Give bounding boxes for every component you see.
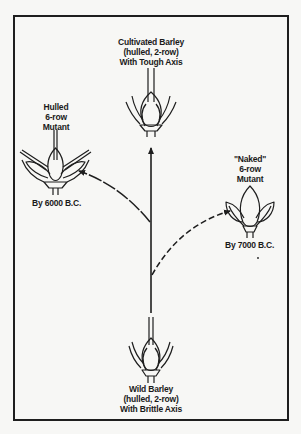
naked-6row-mutant-spikelet-icon xyxy=(226,186,274,238)
wild-barley-spikelet-icon xyxy=(129,317,173,383)
label-line: (hulled, 2-row) xyxy=(116,394,186,404)
label-line: 6-row xyxy=(36,112,76,122)
label-line: Mutant xyxy=(36,122,76,132)
label-line: Cultivated Barley xyxy=(116,37,186,47)
cultivated-barley-spikelet-icon xyxy=(126,68,176,137)
label-naked-6row-mutant: "Naked" 6-row Mutant xyxy=(228,154,272,184)
label-cultivated-barley: Cultivated Barley (hulled, 2-row) With T… xyxy=(116,37,186,67)
edge-wild-to-hulled-mutant xyxy=(79,171,150,222)
label-line: 6-row xyxy=(228,164,272,174)
stray-dot xyxy=(257,257,259,259)
label-line: Hulled xyxy=(36,102,76,112)
label-hulled-6row-mutant: Hulled 6-row Mutant xyxy=(36,102,76,132)
label-line: Wild Barley xyxy=(116,384,186,394)
label-line: Mutant xyxy=(228,174,272,184)
date-hulled-6row-mutant: By 6000 B.C. xyxy=(32,198,81,208)
date-naked-6row-mutant: By 7000 B.C. xyxy=(225,240,274,250)
label-line: "Naked" xyxy=(228,154,272,164)
label-wild-barley: Wild Barley (hulled, 2-row) With Brittle… xyxy=(116,384,186,414)
label-line: With Brittle Axis xyxy=(116,404,186,414)
edge-wild-to-naked-mutant xyxy=(152,211,230,275)
label-line: With Tough Axis xyxy=(116,57,186,67)
hulled-6row-mutant-spikelet-icon xyxy=(20,130,91,195)
label-line: (hulled, 2-row) xyxy=(116,47,186,57)
